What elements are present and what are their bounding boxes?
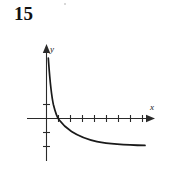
y-axis-label: y <box>49 44 54 54</box>
figure-page: 15 <box>0 0 170 178</box>
x-axis-arrow-icon <box>146 115 155 122</box>
coordinate-plot: x y <box>0 0 170 178</box>
plot-curve <box>48 58 145 145</box>
x-axis-label: x <box>149 102 154 112</box>
graph-figure: x y <box>0 0 170 178</box>
scan-speck <box>64 3 66 5</box>
